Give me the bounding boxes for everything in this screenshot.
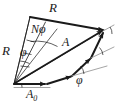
label-R-top: R	[49, 1, 57, 14]
arc-phi-joint-4	[110, 27, 112, 34]
label-N-phi: Nφ	[31, 23, 46, 35]
label-phi-bottom: φ	[76, 74, 83, 86]
vector-chord-2	[47, 77, 71, 85]
phasor-vector-diagram: R R Nφ A A0 φ φ	[0, 0, 115, 109]
label-phi-left: φ	[20, 46, 27, 58]
label-R-left: R	[2, 44, 10, 57]
label-A0: A0	[26, 88, 37, 103]
label-A-resultant: A	[62, 36, 69, 48]
reference-parallel-3	[103, 25, 114, 31]
diagram-canvas	[0, 0, 115, 109]
label-A0-subscript: 0	[33, 94, 37, 103]
